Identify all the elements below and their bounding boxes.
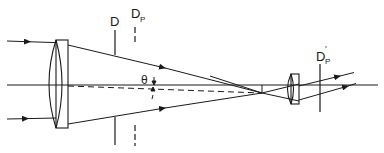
optical-diagram: D D P θ D P ′: [0, 0, 384, 153]
label-d: D: [110, 14, 119, 29]
label-dp-prime-subscript: P: [325, 57, 330, 66]
angle-theta-marker: [151, 77, 156, 99]
label-dp-subscript: P: [140, 15, 145, 24]
label-dp-prime-mark: ′: [325, 44, 327, 54]
label-dp: D: [131, 6, 140, 21]
label-dp-prime: D: [316, 49, 325, 64]
label-theta: θ: [141, 73, 148, 87]
objective-lens: [49, 40, 68, 128]
diverging-rays: [210, 76, 299, 101]
chief-ray-dashed: [68, 86, 262, 93]
output-rays: [299, 73, 356, 101]
